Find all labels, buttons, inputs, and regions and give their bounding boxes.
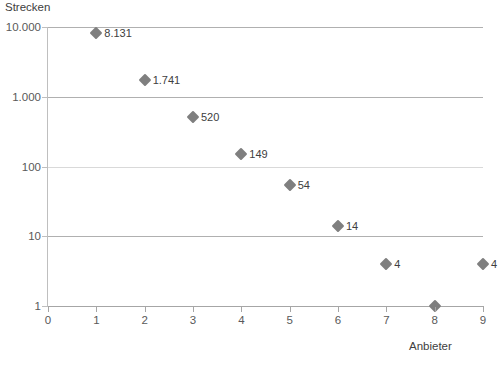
- y-axis-tick: [42, 167, 48, 168]
- x-axis-tick: [193, 307, 194, 312]
- data-point-marker[interactable]: [235, 148, 248, 161]
- x-axis-tick: [48, 307, 49, 312]
- x-axis-tick: [241, 307, 242, 312]
- x-axis-tick: [290, 307, 291, 312]
- data-point-marker[interactable]: [380, 258, 393, 271]
- x-axis-tick: [96, 307, 97, 312]
- data-point-label: 149: [249, 148, 267, 160]
- x-axis-tick: [145, 307, 146, 312]
- data-point-label: 4: [394, 258, 400, 270]
- x-axis-line: [48, 306, 484, 307]
- gridline: [48, 97, 483, 98]
- data-point-marker[interactable]: [477, 258, 490, 271]
- y-axis-tick-label: 1.000: [0, 91, 41, 103]
- x-axis-tick: [338, 307, 339, 312]
- data-point-marker[interactable]: [187, 110, 200, 123]
- data-point-marker[interactable]: [138, 74, 151, 87]
- x-axis-tick-label: 6: [335, 314, 341, 326]
- data-point-label: 1.741: [153, 74, 181, 86]
- x-axis-tick-label: 4: [238, 314, 244, 326]
- x-axis-tick-label: 9: [480, 314, 486, 326]
- y-axis-tick-label: 100: [0, 161, 41, 173]
- y-axis-tick: [42, 97, 48, 98]
- data-point-label: 4: [491, 258, 497, 270]
- x-axis-tick-label: 2: [141, 314, 147, 326]
- x-axis-tick-label: 0: [45, 314, 51, 326]
- x-axis-title: Anbieter: [409, 340, 452, 352]
- x-axis-tick-label: 1: [93, 314, 99, 326]
- scatter-chart: Strecken Anbieter 8.1311.741520149541444…: [0, 0, 502, 367]
- y-axis-tick: [42, 236, 48, 237]
- data-point-label: 520: [201, 111, 219, 123]
- data-point-label: 14: [346, 220, 358, 232]
- y-axis-tick-label: 1: [0, 300, 41, 312]
- data-point-label: 8.131: [104, 27, 132, 39]
- x-axis-tick: [435, 307, 436, 312]
- y-axis-title: Strecken: [5, 1, 50, 13]
- data-point-label: 54: [298, 179, 310, 191]
- gridline: [48, 236, 483, 237]
- y-axis-tick-label: 10.000: [0, 21, 41, 33]
- x-axis-tick: [483, 307, 484, 312]
- data-point-marker[interactable]: [283, 179, 296, 192]
- x-axis-tick-label: 7: [383, 314, 389, 326]
- data-point-marker[interactable]: [90, 27, 103, 40]
- plot-area: 8.1311.741520149541444: [48, 27, 483, 306]
- gridline: [48, 167, 483, 168]
- x-axis-tick-label: 5: [286, 314, 292, 326]
- x-axis-tick-label: 3: [190, 314, 196, 326]
- x-axis-tick-label: 8: [431, 314, 437, 326]
- y-axis-tick: [42, 27, 48, 28]
- y-axis-tick-label: 10: [0, 230, 41, 242]
- data-point-marker[interactable]: [332, 220, 345, 233]
- x-axis-tick: [386, 307, 387, 312]
